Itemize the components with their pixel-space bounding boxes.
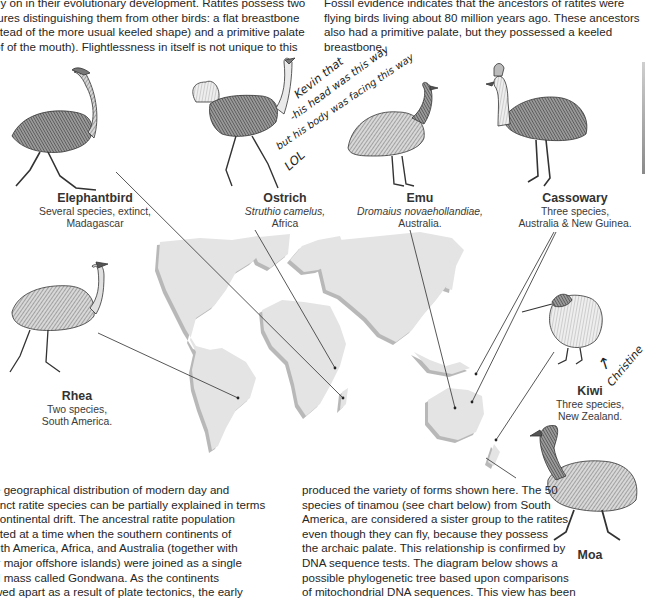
asia-landmass <box>318 232 464 342</box>
text-line: of mitochondrial DNA sequences. This vie… <box>302 585 526 600</box>
text-line: wed apart as a result of plate tectonics… <box>0 585 294 600</box>
text-line: sted at a time when the southern contine… <box>0 527 294 542</box>
paragraph-bottom-middle: produced the variety of forms shown here… <box>302 483 526 600</box>
paragraph-top-left: rly on in their evolutionary development… <box>0 0 316 54</box>
bird-range: Australia. <box>340 218 500 231</box>
label-ostrich: Ostrich Struthio camelus, Africa <box>210 191 360 231</box>
pointer-cassowary-au <box>472 232 556 402</box>
text-line: ir major offshore islands) were joined a… <box>0 556 294 571</box>
bird-scientific-name: Struthio camelus, <box>210 206 360 219</box>
bird-range: Africa <box>210 218 360 231</box>
text-line: rly on in their evolutionary development… <box>0 0 316 11</box>
label-elephantbird: Elephantbird Several species, extinct, M… <box>20 191 170 231</box>
text-line: breastbone. <box>324 40 632 55</box>
text-line: the archaic palate. This relationship is… <box>302 541 526 556</box>
handwriting-line-4: LOL <box>282 148 308 173</box>
text-line: species of tinamou (see chart below) fro… <box>302 498 526 513</box>
bird-desc: Several species, extinct, <box>20 206 170 219</box>
bird-name: Kiwi <box>545 384 635 399</box>
australia-landmass <box>428 388 484 440</box>
bird-desc: Three species, <box>545 399 635 412</box>
pointer-moa <box>486 458 516 478</box>
new-zealand-landmass <box>488 444 500 466</box>
africa-landmass <box>262 300 346 416</box>
label-rhea: Rhea Two species, South America. <box>2 389 152 429</box>
label-cassowary: Cassowary Three species, Australia & New… <box>505 191 645 231</box>
text-line: d mass called Gondwana. As the continent… <box>0 571 294 586</box>
bird-desc: Three species, <box>505 206 645 219</box>
text-line: flying birds living about 80 million yea… <box>324 11 632 26</box>
greenland-landmass <box>248 234 290 268</box>
north-america-landmass <box>158 236 268 360</box>
bird-desc: Two species, <box>2 404 152 417</box>
text-line: continental drift. The ancestral ratite … <box>0 512 294 527</box>
paragraph-bottom-left: e geographical distribution of modern da… <box>0 483 294 600</box>
text-line: even though they can fly, because they p… <box>302 527 526 542</box>
emu-illustration <box>348 82 438 186</box>
text-line: produced the variety of forms shown here… <box>302 483 526 498</box>
text-line: uth America, Africa, and Australia (toge… <box>0 541 294 556</box>
text-line: of of the mouth). Flightlessness in itse… <box>0 40 316 55</box>
bird-range: New Zealand. <box>545 411 635 424</box>
ostrich-illustration <box>193 58 295 188</box>
bird-name: Elephantbird <box>20 191 170 206</box>
text-line: DNA sequence tests. The diagram below sh… <box>302 556 526 571</box>
south-america-landmass <box>192 348 256 450</box>
text-line: America, are considered a sister group t… <box>302 512 526 527</box>
text-line: e geographical distribution of modern da… <box>0 483 294 498</box>
bird-name: Emu <box>340 191 500 206</box>
bird-name: Cassowary <box>505 191 645 206</box>
cassowary-illustration <box>486 64 587 187</box>
bird-name: Ostrich <box>210 191 360 206</box>
text-line: Fossil evidence indicates that the ances… <box>324 0 632 11</box>
pointer-cassowary-ng <box>476 232 554 374</box>
rhea-illustration <box>10 262 108 372</box>
bird-range: Madagascar <box>20 218 170 231</box>
text-line: tures distinguishing them from other bir… <box>0 11 316 26</box>
kiwi-illustration <box>522 294 602 364</box>
label-emu: Emu Dromaius novaehollandiae, Australia. <box>340 191 500 231</box>
paragraph-top-right: Fossil evidence indicates that the ances… <box>324 0 632 54</box>
text-line: stead of the more usual keeled shape) an… <box>0 25 316 40</box>
elephantbird-illustration <box>12 68 97 190</box>
bird-range: Australia & New Guinea. <box>505 218 645 231</box>
label-kiwi: Kiwi Three species, New Zealand. <box>545 384 635 424</box>
text-line: tinct ratite species can be partially ex… <box>0 498 294 513</box>
text-line: possible phylogenetic tree based upon co… <box>302 571 526 586</box>
handwriting-kiwi: ↑ Christine <box>595 343 645 389</box>
madagascar-landmass <box>340 388 348 410</box>
bird-range: South America. <box>2 416 152 429</box>
bird-scientific-name: Dromaius novaehollandiae, <box>340 206 500 219</box>
text-line: also had a primitive palate, but they po… <box>324 25 632 40</box>
bird-name: Rhea <box>2 389 152 404</box>
world-map <box>158 232 500 466</box>
